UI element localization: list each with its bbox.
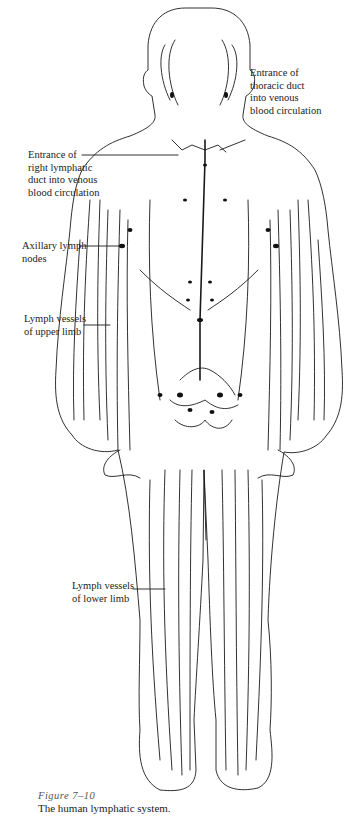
label-lower-limb: Lymph vessels of lower limb [72, 580, 134, 605]
figure-number: Figure 7–10 [38, 790, 171, 802]
lymphatic-system-illustration [0, 0, 351, 820]
leader-thoracic [220, 140, 245, 150]
label-axillary-nodes: Axillary lymph nodes [22, 240, 86, 265]
figure-caption-text: The human lymphatic system. [38, 802, 171, 815]
body-outline [56, 8, 343, 791]
label-upper-limb: Lymph vessels of upper limb [24, 313, 86, 338]
figure-caption: Figure 7–10 The human lymphatic system. [38, 790, 171, 815]
label-right-lymphatic-duct: Entrance of right lymphatic duct into ve… [28, 149, 99, 199]
label-thoracic-duct: Entrance of thoracic duct into venous bl… [250, 67, 321, 117]
